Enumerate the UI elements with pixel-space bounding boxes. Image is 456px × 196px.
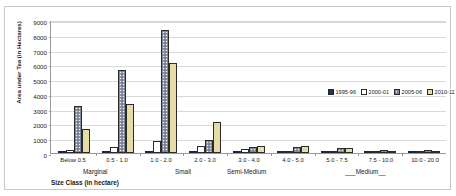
bar[interactable] <box>82 129 90 153</box>
bar[interactable] <box>161 30 169 153</box>
x-axis-group-label: ___Medium__ <box>345 168 386 175</box>
y-axis-tick-mark <box>49 96 51 97</box>
legend-item[interactable]: 2010-11 <box>427 89 455 95</box>
bar[interactable] <box>189 151 197 153</box>
y-axis-tick-label: 6000 <box>7 63 47 70</box>
legend-swatch-icon <box>328 89 334 95</box>
legend-item[interactable]: 2000-01 <box>361 89 389 95</box>
bar-group <box>271 22 315 153</box>
x-axis-tick-label: Below 0.5 <box>51 157 95 163</box>
bar-group <box>227 22 271 153</box>
y-axis-tick-mark <box>49 52 51 53</box>
y-axis-tick-label: 2000 <box>7 122 47 129</box>
bar-group <box>315 22 359 153</box>
legend-label: 2010-11 <box>435 89 455 95</box>
y-axis-tick-mark <box>49 155 51 156</box>
y-axis-tick-mark <box>49 111 51 112</box>
x-axis-tick-labels: Below 0.50.5 - 1.01.0 - 2.02.0 - 3.03.0 … <box>51 157 447 163</box>
bar[interactable] <box>74 106 82 153</box>
y-axis-tick-label: 1000 <box>7 137 47 144</box>
legend-label: 2000-01 <box>369 89 390 95</box>
bar[interactable] <box>169 63 177 153</box>
legend-item[interactable]: 1995-96 <box>328 89 356 95</box>
bar[interactable] <box>257 146 265 153</box>
bar[interactable] <box>249 147 257 153</box>
bar[interactable] <box>329 151 337 153</box>
y-axis-tick-label: 7000 <box>7 48 47 55</box>
bar[interactable] <box>153 141 161 153</box>
y-axis-tick-label: 8000 <box>7 33 47 40</box>
bar[interactable] <box>205 140 213 153</box>
bar[interactable] <box>277 151 285 153</box>
bar[interactable] <box>233 151 241 153</box>
y-axis-tick-mark <box>49 22 51 23</box>
bar[interactable] <box>213 122 221 153</box>
y-axis-tick-mark <box>49 37 51 38</box>
y-axis-tick-mark <box>49 66 51 67</box>
bar[interactable] <box>293 147 301 153</box>
bar-group <box>183 22 227 153</box>
y-axis-tick-label: 9000 <box>7 19 47 26</box>
bar[interactable] <box>66 150 74 153</box>
y-axis-tick-label: 0 <box>7 152 47 159</box>
bar[interactable] <box>197 146 205 153</box>
bar[interactable] <box>110 147 118 153</box>
legend-swatch-icon <box>394 89 400 95</box>
bar[interactable] <box>321 151 329 153</box>
bar-group <box>96 22 140 153</box>
chart-legend: 1995-962000-012005-062010-11 <box>327 89 456 95</box>
x-axis-title: Size Class (in hectare) <box>51 179 119 186</box>
bar[interactable] <box>241 149 249 153</box>
bar[interactable] <box>337 148 345 153</box>
x-axis-tick-label: 5.0 - 7.5 <box>315 157 359 163</box>
legend-item[interactable]: 2005-06 <box>394 89 422 95</box>
x-axis-group-label: Marginal <box>83 168 108 175</box>
y-axis-tick-mark <box>49 125 51 126</box>
x-axis-tick-label: 2.0 - 3.0 <box>183 157 227 163</box>
x-axis-tick-label: 0.5 - 1.0 <box>95 157 139 163</box>
x-axis-tick-label: 1.0 - 2.0 <box>139 157 183 163</box>
bar[interactable] <box>364 151 372 153</box>
y-axis-tick-mark <box>49 140 51 141</box>
bar[interactable] <box>58 151 66 153</box>
bar[interactable] <box>372 151 380 153</box>
bar[interactable] <box>432 151 440 153</box>
legend-label: 2005-06 <box>402 89 423 95</box>
bar[interactable] <box>285 151 293 153</box>
y-axis-tick-label: 3000 <box>7 107 47 114</box>
y-axis-tick-label: 5000 <box>7 78 47 85</box>
x-axis-tick-label: 4.0 - 5.0 <box>271 157 315 163</box>
bar-group <box>402 22 446 153</box>
bar-group <box>358 22 402 153</box>
plot-area: 9000800070006000500040003000200010000 19… <box>50 21 446 154</box>
bar[interactable] <box>126 104 134 154</box>
bar[interactable] <box>388 151 396 153</box>
bar[interactable] <box>416 151 424 153</box>
bar[interactable] <box>145 151 153 153</box>
y-axis-tick-label: 4000 <box>7 92 47 99</box>
bar-groups <box>52 22 446 153</box>
chart-figure: Area under Tea (in Hectares) 90008000700… <box>4 6 451 190</box>
bar[interactable] <box>118 70 126 153</box>
bar-group <box>52 22 96 153</box>
bar-group <box>140 22 184 153</box>
bar[interactable] <box>345 148 353 153</box>
bar[interactable] <box>424 150 432 153</box>
y-axis-tick-mark <box>49 81 51 82</box>
bar[interactable] <box>380 150 388 153</box>
x-axis-tick-label: 10.0 - 20.0 <box>403 157 447 163</box>
legend-swatch-icon <box>427 89 433 95</box>
bar[interactable] <box>102 151 110 153</box>
x-axis-tick-label: 7.5 - 10.0 <box>359 157 403 163</box>
bar[interactable] <box>301 146 309 153</box>
x-axis-group-label: Small <box>175 168 191 175</box>
legend-swatch-icon <box>361 89 367 95</box>
x-axis-group-label: Semi-Medium <box>227 168 266 175</box>
legend-label: 1995-96 <box>336 89 357 95</box>
bar[interactable] <box>408 151 416 153</box>
x-axis-tick-label: 3.0 - 4.0 <box>227 157 271 163</box>
